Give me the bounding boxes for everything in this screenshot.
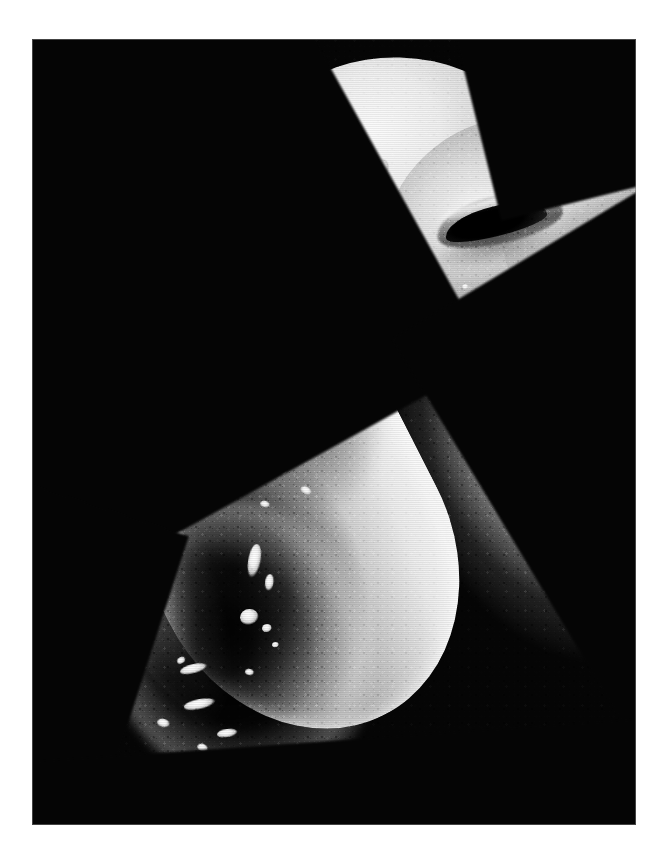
page-canvas bbox=[0, 0, 666, 846]
micrograph-image bbox=[32, 39, 636, 825]
halftone-grain-overlay bbox=[32, 39, 636, 825]
micrograph-plate bbox=[32, 39, 636, 825]
